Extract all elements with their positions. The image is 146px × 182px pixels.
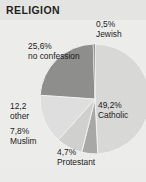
slice-label-jewish: 0,5% Jewish bbox=[96, 20, 122, 39]
slice-name-other: other bbox=[10, 112, 29, 122]
slice-label-no-confession: 25,6% no confession bbox=[28, 42, 80, 61]
religion-pie-chart-figure: RELIGION 0,5% Jewish 25,6% no confession… bbox=[0, 0, 146, 182]
slice-name-muslim: Muslim bbox=[10, 137, 37, 147]
slice-name-jewish: Jewish bbox=[96, 30, 122, 40]
slice-label-muslim: 7,8% Muslim bbox=[10, 127, 37, 146]
slice-name-catholic: Catholic bbox=[98, 111, 128, 121]
slice-label-protestant: 4,7% Protestant bbox=[57, 148, 95, 167]
slice-label-other: 12,2 other bbox=[10, 102, 29, 121]
slice-label-catholic: 49,2% Catholic bbox=[98, 101, 128, 120]
pie-slice-catholic bbox=[95, 44, 146, 154]
slice-name-no-confession: no confession bbox=[28, 52, 80, 62]
slice-name-protestant: Protestant bbox=[57, 158, 95, 168]
